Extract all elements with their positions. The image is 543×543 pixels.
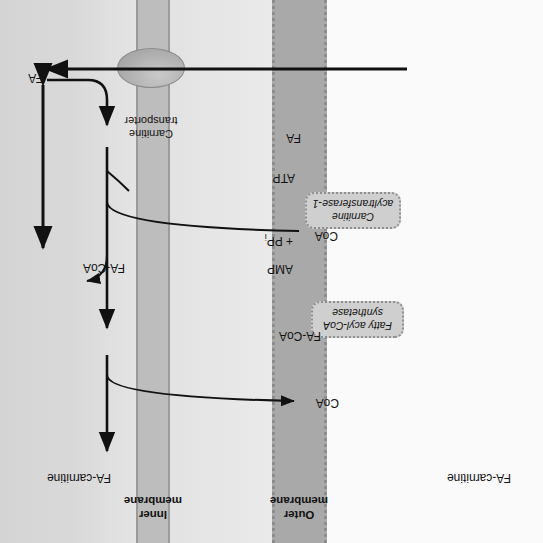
species-fa-coa-cytosol: FA-CoA <box>279 329 321 343</box>
species-fa-cytosol: FA <box>28 71 43 85</box>
species-amp-ppi: AMP + PPi <box>265 231 293 290</box>
species-fa-coa-matrix: FA-CoA <box>83 261 125 275</box>
species-atp: ATP <box>273 171 295 185</box>
species-fa-carnitine-matrix-side: FA-carnitine <box>447 471 511 485</box>
amp-ppi-line1: AMP <box>267 262 293 276</box>
species-coa-substrate: CoA <box>315 229 338 243</box>
species-fa-carnitine-cytosol-side: FA-carnitine <box>47 471 111 485</box>
species-coa-released: CoA <box>316 396 339 410</box>
species-fa-membrane: FA <box>286 131 301 145</box>
diagram-canvas: Outer membrane Inner membrane Fatty acyl… <box>0 0 543 543</box>
amp-ppi-subscript: i <box>265 231 267 241</box>
figure-rotated-container: Outer membrane Inner membrane Fatty acyl… <box>0 0 543 543</box>
amp-ppi-line2: + PP <box>267 234 293 248</box>
